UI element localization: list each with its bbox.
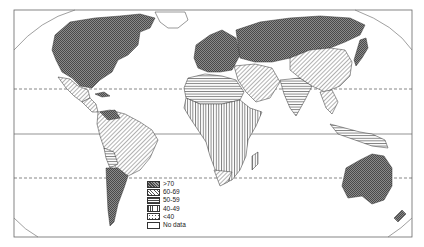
legend: >70 60-69 50-59 40-49 <40 No data xyxy=(147,180,186,229)
legend-swatch-dense xyxy=(147,181,160,188)
legend-label: >70 xyxy=(163,180,174,188)
legend-label: 40-49 xyxy=(163,205,180,213)
legend-item: <40 xyxy=(147,213,186,221)
legend-item: 40-49 xyxy=(147,205,186,213)
legend-swatch-blank xyxy=(147,222,160,229)
world-map xyxy=(0,0,424,247)
legend-swatch-vertical xyxy=(147,205,160,212)
legend-label: 60-69 xyxy=(163,188,180,196)
legend-item: >70 xyxy=(147,180,186,188)
legend-item: 60-69 xyxy=(147,188,186,196)
legend-swatch-horizontal xyxy=(147,197,160,204)
legend-item: No data xyxy=(147,221,186,229)
legend-swatch-diagonal xyxy=(147,189,160,196)
legend-swatch-dotted xyxy=(147,213,160,220)
legend-label: <40 xyxy=(163,213,174,221)
legend-label: 50-59 xyxy=(163,196,180,204)
legend-label: No data xyxy=(163,221,186,229)
legend-item: 50-59 xyxy=(147,196,186,204)
